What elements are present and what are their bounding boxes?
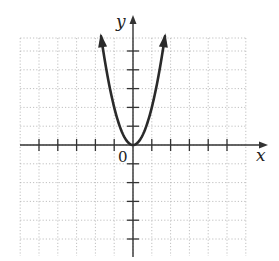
- arrowhead-icon: [98, 33, 107, 48]
- x-axis-label: x: [256, 145, 266, 165]
- y-axis-arrow-icon: [130, 15, 137, 24]
- axes: [20, 15, 268, 257]
- y-axis-label: y: [115, 11, 126, 31]
- arrowhead-icon: [159, 33, 168, 48]
- origin-label: 0: [118, 148, 128, 166]
- coordinate-plane: y x 0: [0, 0, 279, 261]
